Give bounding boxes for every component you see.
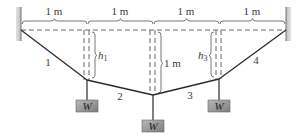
cable-diagram: 1 m 1 m 1 m 1 m h1 1 m h3 (0, 0, 308, 138)
cable-3 (153, 79, 219, 95)
cable-label-1: 1 (45, 56, 51, 68)
span-braces (22, 19, 285, 25)
cable-1 (21, 30, 87, 80)
cables (21, 30, 286, 95)
span-label-2: 1 m (112, 5, 129, 17)
height-braces (92, 32, 214, 93)
h1-label: h1 (98, 49, 108, 63)
svg-text:W: W (214, 100, 224, 112)
svg-text:W: W (82, 100, 92, 112)
weight-3: W (208, 100, 230, 112)
cable-label-4: 4 (253, 54, 259, 66)
svg-text:W: W (148, 120, 158, 132)
span-label-3: 1 m (178, 5, 195, 17)
h2-label: 1 m (164, 57, 181, 69)
span-label-1: 1 m (46, 5, 63, 17)
right-wall (286, 7, 291, 41)
h3-label: h3 (198, 49, 208, 63)
left-wall (16, 7, 21, 41)
span-label-4: 1 m (244, 5, 261, 17)
weight-2: W (142, 120, 164, 132)
weight-1: W (76, 100, 98, 112)
dashed-reference (21, 30, 286, 95)
cable-label-3: 3 (187, 89, 193, 101)
cable-label-2: 2 (117, 90, 123, 102)
